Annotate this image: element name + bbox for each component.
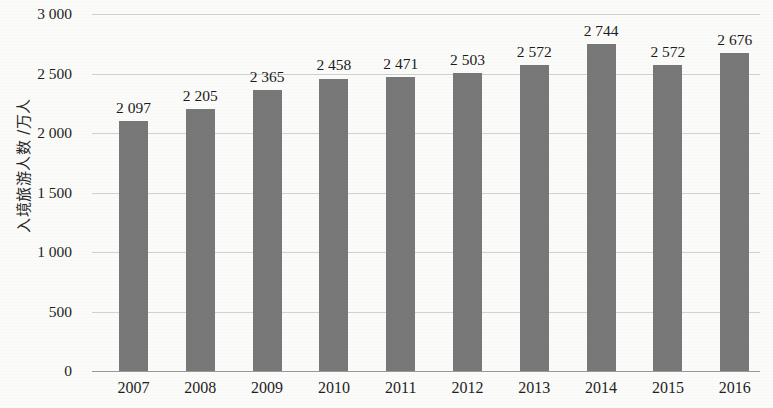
bar [186, 109, 215, 371]
bar [253, 90, 282, 371]
y-axis-tick-label: 500 [6, 304, 72, 319]
bar-value-label: 2 365 [235, 69, 299, 85]
y-axis-title: 入境旅游人数 /万人 [12, 56, 33, 276]
x-axis-tick-label: 2009 [235, 379, 299, 397]
bar-value-label: 2 676 [703, 32, 767, 48]
bar [587, 44, 616, 371]
x-axis-tick-label: 2012 [436, 379, 500, 397]
gridline [92, 14, 760, 15]
bar-value-label: 2 097 [102, 100, 166, 116]
bar-value-label: 2 503 [436, 52, 500, 68]
x-axis-tick-label: 2008 [168, 379, 232, 397]
bar [720, 53, 749, 371]
y-axis-tick-label: 3 000 [6, 6, 72, 21]
bar [319, 79, 348, 372]
bar-value-label: 2 458 [302, 57, 366, 73]
bar-value-label: 2 572 [636, 44, 700, 60]
x-axis-tick-label: 2013 [502, 379, 566, 397]
x-axis-tick-label: 2014 [569, 379, 633, 397]
bar [119, 121, 148, 371]
axis-baseline [92, 371, 760, 372]
bar [520, 65, 549, 371]
x-axis-tick-label: 2015 [636, 379, 700, 397]
x-axis-tick-label: 2007 [102, 379, 166, 397]
bar-value-label: 2 471 [369, 56, 433, 72]
bar [386, 77, 415, 371]
y-axis-tick-label: 2 000 [6, 125, 72, 140]
y-axis-tick-label: 1 000 [6, 244, 72, 259]
bar-chart: 入境旅游人数 /万人 3 0002 5002 0001 5001 0005000… [0, 0, 773, 408]
bar-value-label: 2 205 [168, 88, 232, 104]
x-axis-tick-label: 2010 [302, 379, 366, 397]
x-axis-tick-label: 2016 [703, 379, 767, 397]
y-axis-tick-label: 0 [6, 363, 72, 378]
y-axis-tick-label: 2 500 [6, 66, 72, 81]
bar [453, 73, 482, 371]
bar-value-label: 2 572 [502, 44, 566, 60]
y-axis-tick-label: 1 500 [6, 185, 72, 200]
x-axis-tick-label: 2011 [369, 379, 433, 397]
bar [653, 65, 682, 371]
bar-value-label: 2 744 [569, 23, 633, 39]
